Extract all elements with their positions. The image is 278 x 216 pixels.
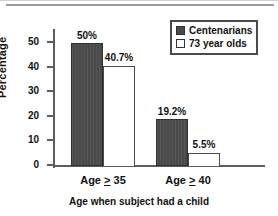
- greater-or-equal-icon: >: [104, 174, 110, 186]
- bar-73-year-olds: 40.7%: [103, 66, 135, 166]
- chart-legend: Centenarians 73 year olds: [170, 20, 258, 55]
- chart-figure: Percentage 01020304050 50%40.7%19.2%5.5%…: [0, 0, 278, 216]
- legend-label: Centenarians: [189, 25, 252, 36]
- bar-value-label: 5.5%: [193, 139, 216, 150]
- legend-item-centenarians: Centenarians: [176, 24, 252, 37]
- y-tick-label: 0: [33, 159, 39, 170]
- y-tick: 20: [47, 115, 53, 117]
- light-square-swatch-icon: [176, 39, 185, 48]
- bar-value-label: 50%: [77, 30, 97, 41]
- y-tick: 50: [47, 41, 53, 43]
- y-tick-label: 10: [28, 134, 39, 145]
- bar-73-year-olds: 5.5%: [188, 153, 220, 167]
- category-label: Age > 40: [165, 174, 211, 186]
- x-axis-title: Age when subject had a child: [0, 196, 278, 207]
- bar-centenarians: 50%: [71, 43, 103, 166]
- y-tick-label: 20: [28, 109, 39, 120]
- y-tick: 0: [47, 164, 53, 166]
- category-label: Age > 35: [80, 174, 126, 186]
- bar-centenarians: 19.2%: [156, 119, 188, 166]
- bar-value-label: 40.7%: [105, 52, 133, 63]
- y-tick-label: 30: [28, 85, 39, 96]
- legend-label: 73 year olds: [189, 38, 247, 49]
- scan-artifact-line-top: [0, 0, 278, 1]
- scan-artifact-line: [6, 4, 274, 6]
- dark-square-swatch-icon: [176, 26, 185, 35]
- greater-or-equal-icon: >: [189, 174, 195, 186]
- y-tick-label: 50: [28, 36, 39, 47]
- legend-item-73-year-olds: 73 year olds: [176, 37, 252, 50]
- y-tick: 40: [47, 66, 53, 68]
- y-tick: 10: [47, 139, 53, 141]
- y-axis-title: Percentage: [0, 37, 8, 98]
- y-tick-label: 40: [28, 60, 39, 71]
- bar-value-label: 19.2%: [158, 106, 186, 117]
- y-tick: 30: [47, 90, 53, 92]
